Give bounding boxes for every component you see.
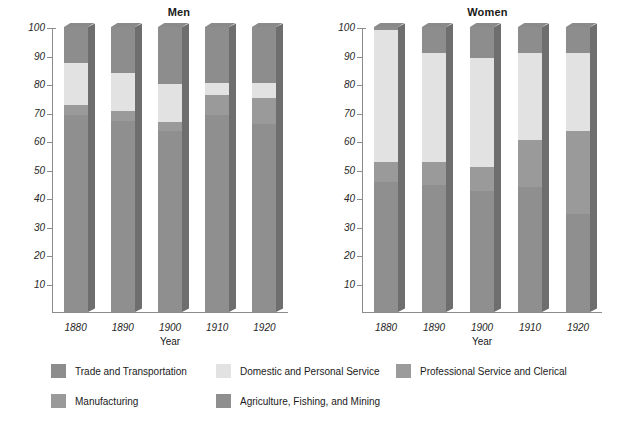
legend-swatch-domestic-and-personal-service (216, 364, 231, 378)
bar-side-face (135, 24, 142, 312)
bar-segment-domestic-and-personal-service[interactable] (252, 83, 276, 99)
bar-segment-manufacturing[interactable] (252, 98, 276, 124)
bar-1910[interactable] (205, 27, 229, 312)
bar-segment-domestic-and-personal-service[interactable] (64, 63, 88, 106)
chart-figure: Men Percentage of All Men Working 102030… (0, 0, 627, 421)
bar-side-face (542, 24, 549, 312)
bar-segment-agriculture-fishing-and-mining[interactable] (566, 214, 590, 312)
bar-segment-trade-and-transportation[interactable] (518, 27, 542, 53)
bar-segment-manufacturing[interactable] (518, 140, 542, 187)
x-tick-label: 1910 (206, 322, 228, 333)
bar-1890[interactable] (111, 27, 135, 312)
y-tick-label: 100 (338, 23, 355, 33)
plot-area-women: 1020304050607080901001880189019001910192… (362, 28, 602, 313)
y-tick (357, 285, 362, 286)
panel-title-men: Men (0, 6, 320, 18)
x-tick-label: 1920 (567, 322, 589, 333)
bar-segment-agriculture-fishing-and-mining[interactable] (205, 115, 229, 312)
bar-1880[interactable] (374, 27, 398, 312)
bar-1900[interactable] (158, 27, 182, 312)
y-tick (357, 114, 362, 115)
y-tick-label: 100 (28, 23, 45, 33)
y-tick-label: 10 (344, 280, 355, 290)
bar-segment-trade-and-transportation[interactable] (422, 27, 446, 53)
legend-swatch-agriculture-fishing-and-mining (216, 394, 231, 408)
y-axis-top-cap (52, 28, 56, 29)
legend-label: Trade and Transportation (75, 366, 187, 377)
bar-segment-agriculture-fishing-and-mining[interactable] (374, 182, 398, 312)
bar-segment-domestic-and-personal-service[interactable] (422, 53, 446, 163)
bar-side-face (182, 24, 189, 312)
y-tick-label: 70 (344, 109, 355, 119)
bar-segment-domestic-and-personal-service[interactable] (470, 58, 494, 166)
y-tick (47, 199, 52, 200)
y-tick-label: 50 (34, 166, 45, 176)
x-tick-label: 1900 (159, 322, 181, 333)
bar-segment-trade-and-transportation[interactable] (111, 27, 135, 73)
y-tick-label: 90 (344, 52, 355, 62)
bar-segment-agriculture-fishing-and-mining[interactable] (158, 131, 182, 312)
bar-segment-domestic-and-personal-service[interactable] (111, 73, 135, 111)
y-tick (47, 114, 52, 115)
bar-side-face (446, 24, 453, 312)
bar-segment-agriculture-fishing-and-mining[interactable] (252, 124, 276, 312)
bar-segment-agriculture-fishing-and-mining[interactable] (518, 187, 542, 312)
bar-segment-agriculture-fishing-and-mining[interactable] (111, 121, 135, 312)
y-tick (47, 228, 52, 229)
bar-segment-trade-and-transportation[interactable] (64, 27, 88, 63)
legend-item: Professional Service and Clerical (396, 364, 567, 378)
bar-segment-manufacturing[interactable] (158, 122, 182, 131)
bar-segment-domestic-and-personal-service[interactable] (205, 83, 229, 96)
bar-1880[interactable] (64, 27, 88, 312)
bar-1910[interactable] (518, 27, 542, 312)
legend-swatch-professional-service-and-clerical (396, 364, 411, 378)
legend-swatch-manufacturing (51, 394, 66, 408)
bar-segment-trade-and-transportation[interactable] (374, 27, 398, 30)
bar-segment-manufacturing[interactable] (111, 111, 135, 121)
bar-segment-manufacturing[interactable] (205, 95, 229, 115)
y-tick (357, 142, 362, 143)
bar-segment-trade-and-transportation[interactable] (566, 27, 590, 53)
legend-label: Professional Service and Clerical (420, 366, 567, 377)
y-tick-label: 70 (34, 109, 45, 119)
bar-1920[interactable] (252, 27, 276, 312)
y-tick-label: 60 (34, 137, 45, 147)
bar-1890[interactable] (422, 27, 446, 312)
legend-label: Agriculture, Fishing, and Mining (240, 396, 380, 407)
x-axis-line-women (362, 312, 602, 313)
bar-1920[interactable] (566, 27, 590, 312)
bar-segment-agriculture-fishing-and-mining[interactable] (64, 115, 88, 312)
bar-segment-domestic-and-personal-service[interactable] (374, 30, 398, 163)
bar-segment-trade-and-transportation[interactable] (205, 27, 229, 83)
bar-1900[interactable] (470, 27, 494, 312)
bar-segment-manufacturing[interactable] (422, 162, 446, 185)
bar-segment-domestic-and-personal-service[interactable] (566, 53, 590, 131)
y-tick-label: 30 (344, 223, 355, 233)
y-tick-label: 90 (34, 52, 45, 62)
bar-segment-trade-and-transportation[interactable] (470, 27, 494, 58)
bar-segment-agriculture-fishing-and-mining[interactable] (470, 191, 494, 312)
bar-segment-manufacturing[interactable] (64, 105, 88, 115)
y-tick-label: 80 (344, 80, 355, 90)
bar-segment-trade-and-transportation[interactable] (252, 27, 276, 83)
bar-segment-domestic-and-personal-service[interactable] (158, 84, 182, 122)
y-tick (357, 256, 362, 257)
legend: Trade and Transportation Domestic and Pe… (0, 358, 627, 421)
x-tick-label: 1920 (253, 322, 275, 333)
y-tick (47, 142, 52, 143)
x-tick-label: 1880 (64, 322, 86, 333)
bar-side-face (276, 24, 283, 312)
legend-item: Manufacturing (51, 394, 138, 408)
legend-item: Trade and Transportation (51, 364, 187, 378)
bar-segment-manufacturing[interactable] (374, 162, 398, 182)
legend-label: Domestic and Personal Service (240, 366, 380, 377)
bar-segment-trade-and-transportation[interactable] (158, 27, 182, 84)
bar-segment-manufacturing[interactable] (470, 167, 494, 191)
bar-segment-manufacturing[interactable] (566, 131, 590, 214)
x-tick-label: 1890 (423, 322, 445, 333)
bar-segment-domestic-and-personal-service[interactable] (518, 53, 542, 140)
y-tick-label: 40 (34, 194, 45, 204)
y-tick (357, 171, 362, 172)
x-tick-label: 1880 (375, 322, 397, 333)
bar-segment-agriculture-fishing-and-mining[interactable] (422, 185, 446, 312)
